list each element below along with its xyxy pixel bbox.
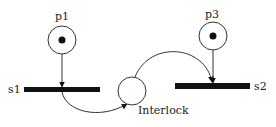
place-p1-label: p1 [55, 10, 69, 23]
place-p3[interactable]: p3 [199, 8, 227, 50]
arc-interlock-s2 [135, 52, 212, 82]
place-p1[interactable]: p1 [48, 10, 76, 54]
transition-s1[interactable]: s1 [8, 83, 100, 96]
transition-s1-bar [24, 87, 100, 92]
arc-s1-interlock [62, 92, 127, 113]
place-interlock-circle [118, 77, 146, 105]
token-icon [210, 33, 217, 40]
petri-net-diagram: p1 s1 Interlock p3 s2 [0, 0, 276, 127]
transition-s2-bar [175, 83, 250, 89]
transition-s2-label: s2 [254, 80, 267, 93]
token-icon [59, 37, 66, 44]
transition-s2[interactable]: s2 [175, 80, 267, 93]
transition-s1-label: s1 [8, 83, 21, 96]
place-interlock-label: Interlock [138, 104, 189, 117]
place-p3-label: p3 [205, 8, 219, 21]
